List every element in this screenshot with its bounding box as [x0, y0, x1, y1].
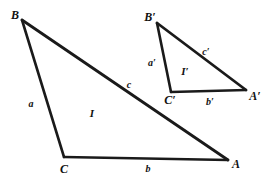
segment-BA-side-c: [22, 20, 228, 160]
segment-BC-side-a: [22, 20, 64, 157]
vertex-label-C-prime: C′: [164, 94, 175, 106]
side-label-c-prime: c′: [202, 47, 209, 57]
vertex-label-B: B: [11, 9, 19, 21]
triangle-I-prime-shape: [157, 23, 246, 92]
side-label-c: c: [127, 80, 131, 90]
triangle-I-shape: [22, 20, 228, 160]
side-label-b-prime: b′: [206, 97, 214, 107]
region-label-I-prime: I′: [181, 66, 188, 77]
region-label-I: I: [90, 108, 94, 119]
vertex-label-A-prime: A′: [249, 90, 260, 102]
vertex-label-B-prime: B′: [144, 11, 155, 23]
segment-CA-side-b: [64, 157, 228, 160]
side-label-a-prime: a′: [148, 58, 156, 68]
side-label-a: a: [29, 99, 34, 109]
vertex-label-A: A: [232, 158, 240, 170]
segment-CpAp-side-bp: [171, 90, 246, 92]
vertex-label-C: C: [60, 163, 68, 175]
side-label-b: b: [146, 164, 151, 174]
geometry-figure: B C A a b c I B′ C′ A′ a′ b′ c′ I′: [0, 0, 276, 192]
